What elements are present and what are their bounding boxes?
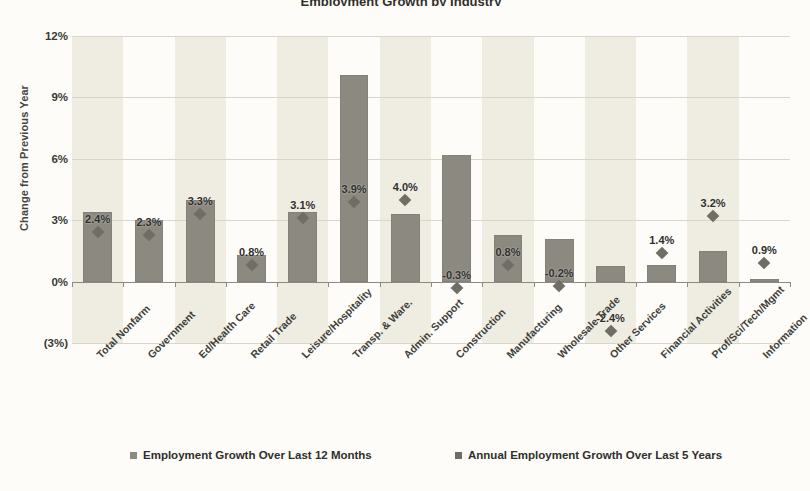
legend-label: Employment Growth Over Last 12 Months [143, 449, 372, 461]
y-tick-label: 12% [34, 30, 68, 42]
axis-tick [739, 282, 740, 287]
axis-tick [226, 282, 227, 287]
data-label: 3.1% [290, 199, 315, 211]
data-label: -0.3% [442, 269, 471, 281]
y-axis-tick-labels: 12%9%6%3%0%(3%) [0, 0, 68, 491]
axis-tick [534, 282, 535, 287]
data-label: -0.2% [545, 267, 574, 279]
axis-tick [790, 282, 791, 287]
bar[interactable] [340, 75, 369, 282]
axis-tick [380, 282, 381, 287]
legend-item[interactable]: Annual Employment Growth Over Last 5 Yea… [455, 449, 722, 461]
data-label: 0.8% [495, 246, 520, 258]
data-label: 0.9% [752, 244, 777, 256]
chart-legend: Employment Growth Over Last 12 MonthsAnn… [0, 449, 802, 471]
y-tick-label: 9% [34, 91, 68, 103]
gridline [72, 36, 790, 37]
data-label: 2.3% [136, 216, 161, 228]
bar[interactable] [391, 214, 420, 282]
data-point-marker[interactable] [758, 257, 771, 270]
bar[interactable] [442, 155, 471, 282]
data-label: 0.8% [239, 246, 264, 258]
axis-tick [72, 282, 73, 287]
legend-swatch-marker-icon [455, 452, 462, 459]
plot-band [72, 36, 123, 343]
plot-area: 2.4%2.3%3.3%0.8%3.1%3.9%4.0%-0.3%0.8%-0.… [72, 36, 790, 343]
data-label: 4.0% [393, 181, 418, 193]
gridline [72, 159, 790, 160]
bar[interactable] [750, 279, 779, 282]
axis-tick [585, 282, 586, 287]
axis-tick [328, 282, 329, 287]
data-label: 2.4% [85, 213, 110, 225]
data-label: 3.9% [342, 183, 367, 195]
legend-label: Annual Employment Growth Over Last 5 Yea… [468, 449, 722, 461]
bar[interactable] [596, 266, 625, 281]
plot-band [277, 36, 328, 343]
data-label: 3.3% [188, 195, 213, 207]
y-tick-label: 6% [34, 153, 68, 165]
plot-band [482, 36, 533, 343]
chart-title: Employment Growth by Industry [0, 0, 802, 6]
gridline [72, 97, 790, 98]
axis-tick [123, 282, 124, 287]
y-tick-label: 0% [34, 276, 68, 288]
bar[interactable] [647, 265, 676, 281]
axis-tick [431, 282, 432, 287]
y-tick-label: 3% [34, 214, 68, 226]
axis-tick [636, 282, 637, 287]
axis-tick [277, 282, 278, 287]
legend-swatch-bar-icon [130, 452, 137, 459]
data-label: 1.4% [649, 234, 674, 246]
axis-tick [482, 282, 483, 287]
y-tick-label: (3%) [34, 337, 68, 349]
axis-tick [687, 282, 688, 287]
axis-tick [175, 282, 176, 287]
bar[interactable] [699, 251, 728, 282]
gridline [72, 220, 790, 221]
data-point-marker[interactable] [655, 247, 668, 260]
legend-item[interactable]: Employment Growth Over Last 12 Months [130, 449, 372, 461]
data-point-marker[interactable] [450, 281, 463, 294]
data-label: 3.2% [701, 197, 726, 209]
plot-band [175, 36, 226, 343]
